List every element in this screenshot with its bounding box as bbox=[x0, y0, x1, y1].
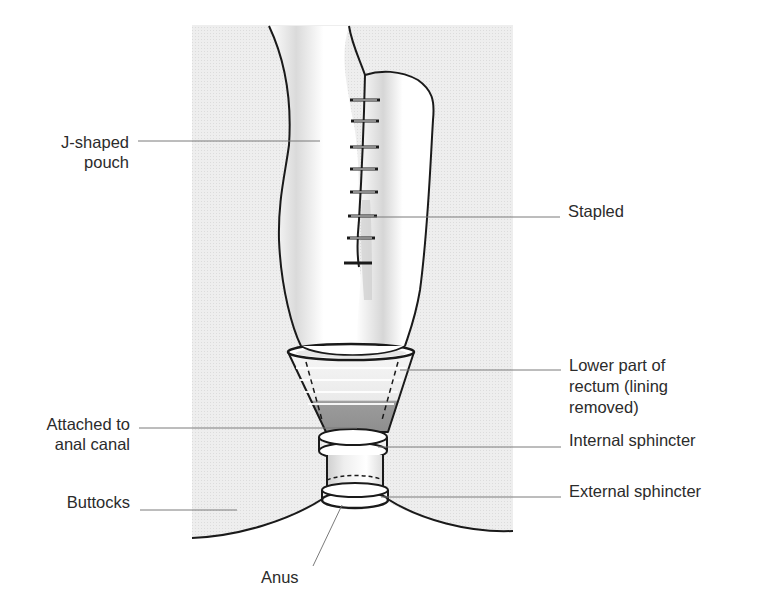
label-attached-to-anal-canal: Attached to anal canal bbox=[47, 414, 130, 454]
internal-sphincter-ring bbox=[319, 429, 387, 459]
label-buttocks: Buttocks bbox=[67, 492, 130, 512]
label-internal-sphincter: Internal sphincter bbox=[569, 430, 696, 450]
label-j-shaped-pouch: J-shaped pouch bbox=[61, 132, 129, 172]
label-stapled: Stapled bbox=[568, 201, 624, 221]
external-sphincter-ring bbox=[322, 483, 388, 508]
leader-anus bbox=[313, 505, 342, 566]
label-lower-part-of-rectum: Lower part of rectum (lining removed) bbox=[569, 355, 668, 418]
label-external-sphincter: External sphincter bbox=[569, 481, 701, 501]
label-anus: Anus bbox=[261, 567, 299, 587]
